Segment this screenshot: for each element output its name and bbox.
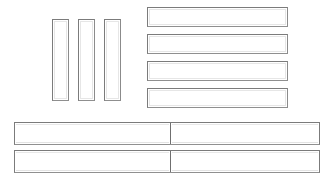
wide-bar-2-cell-left[interactable] (15, 151, 171, 172)
wide-bar-1 (14, 122, 320, 145)
vertical-box-1[interactable] (52, 19, 69, 101)
wireframe-canvas (0, 0, 335, 181)
wide-bar-2 (14, 150, 320, 173)
wide-bar-2-cell-right[interactable] (171, 151, 319, 172)
horizontal-box-1[interactable] (147, 7, 288, 27)
horizontal-box-2[interactable] (147, 34, 288, 54)
vertical-box-2[interactable] (78, 19, 95, 101)
wide-bar-1-cell-left[interactable] (15, 123, 171, 144)
vertical-box-3[interactable] (104, 19, 121, 101)
horizontal-box-3[interactable] (147, 61, 288, 81)
wide-bar-1-cell-right[interactable] (171, 123, 319, 144)
horizontal-box-4[interactable] (147, 88, 288, 108)
